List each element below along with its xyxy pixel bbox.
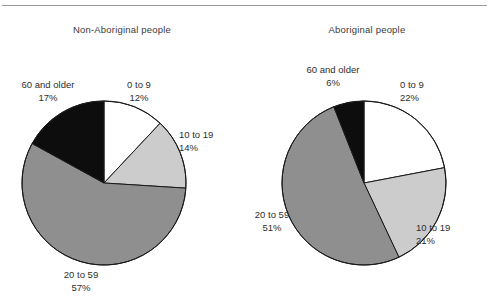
label-non-aboriginal-20-to-59: 20 to 59 57% — [45, 269, 117, 294]
pie-aboriginal — [245, 0, 489, 300]
label-name: 10 to 19 — [179, 129, 213, 140]
label-non-aboriginal-0-to-9: 0 to 9 12% — [108, 79, 170, 104]
label-pct: 57% — [45, 282, 117, 295]
label-pct: 51% — [239, 222, 305, 235]
label-name: 60 and older — [22, 79, 75, 90]
label-name: 0 to 9 — [400, 79, 424, 90]
label-pct: 12% — [108, 92, 170, 105]
label-name: 20 to 59 — [64, 269, 98, 280]
label-aboriginal-60-and-older: 60 and older 6% — [291, 64, 375, 89]
label-pct: 21% — [416, 235, 486, 248]
label-pct: 22% — [400, 92, 462, 105]
label-non-aboriginal-10-to-19: 10 to 19 14% — [179, 129, 243, 154]
label-aboriginal-10-to-19: 10 to 19 21% — [416, 222, 486, 247]
label-name: 60 and older — [307, 64, 360, 75]
label-aboriginal-0-to-9: 0 to 9 22% — [400, 79, 462, 104]
pie-chart-figure: Non-Aboriginal people 0 to 9 12% 10 to 1… — [0, 0, 489, 300]
label-name: 10 to 19 — [416, 222, 450, 233]
chart-panel-non-aboriginal: Non-Aboriginal people 0 to 9 12% 10 to 1… — [0, 0, 244, 300]
label-aboriginal-20-to-59: 20 to 59 51% — [239, 209, 305, 234]
label-name: 0 to 9 — [127, 79, 151, 90]
chart-panel-aboriginal: Aboriginal people 0 to 9 22% 10 to 19 21… — [245, 0, 489, 300]
label-name: 20 to 59 — [255, 209, 289, 220]
label-pct: 6% — [291, 77, 375, 90]
label-non-aboriginal-60-and-older: 60 and older 17% — [6, 79, 90, 104]
label-pct: 14% — [179, 142, 243, 155]
label-pct: 17% — [6, 92, 90, 105]
